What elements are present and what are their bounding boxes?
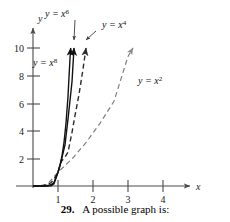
graph-svg: 10 8 6 4 2 1 2 3 4 y x y = x6 y = x4 y =… bbox=[0, 0, 230, 222]
caption-text: A possible graph is: bbox=[82, 203, 169, 215]
y-tick-label-10: 10 bbox=[14, 43, 24, 54]
label-x2: y = x2 bbox=[137, 75, 163, 87]
curve-x8 bbox=[33, 48, 71, 186]
y-tick-label-4: 4 bbox=[19, 126, 24, 137]
y-tick-label-2: 2 bbox=[19, 154, 24, 165]
leader-x4 bbox=[86, 31, 96, 40]
x-axis-label: x bbox=[195, 181, 201, 192]
curve-x6 bbox=[33, 48, 74, 186]
y-tick-label-6: 6 bbox=[19, 99, 24, 110]
label-x4: y = x4 bbox=[101, 19, 127, 31]
y-tick-label-8: 8 bbox=[19, 71, 24, 82]
label-x8: y = x8 bbox=[32, 57, 58, 69]
label-x6: y = x6 bbox=[44, 8, 70, 20]
leader-x6 bbox=[74, 20, 75, 40]
curve-x2 bbox=[33, 48, 133, 186]
figure-container: 10 8 6 4 2 1 2 3 4 y x y = x6 y = x4 y =… bbox=[0, 0, 230, 222]
caption-number: 29. bbox=[61, 203, 75, 215]
y-axis-label: y bbox=[37, 13, 43, 24]
caption: 29. A possible graph is: bbox=[0, 203, 230, 215]
